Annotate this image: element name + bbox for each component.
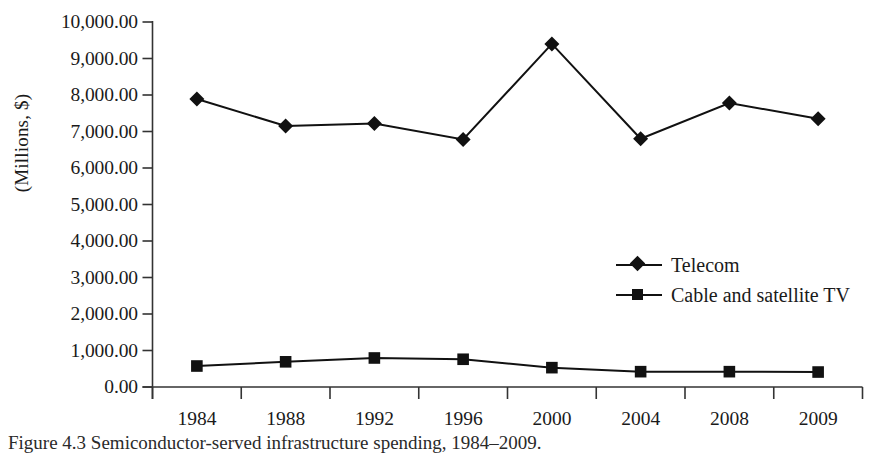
legend-label-telecom: Telecom bbox=[671, 255, 740, 275]
chart-legend: Telecom Cable and satellite TV bbox=[616, 250, 850, 310]
data-point-marker bbox=[280, 356, 292, 368]
data-point-marker bbox=[724, 366, 736, 378]
data-point-marker bbox=[546, 362, 558, 374]
data-point-marker bbox=[369, 352, 381, 364]
data-point-marker bbox=[367, 116, 382, 131]
data-point-marker bbox=[812, 366, 824, 378]
data-point-marker bbox=[635, 366, 647, 378]
data-point-marker bbox=[811, 111, 826, 126]
legend-item-telecom: Telecom bbox=[616, 250, 850, 280]
figure-caption: Figure 4.3 Semiconductor-served infrastr… bbox=[8, 432, 868, 454]
series-cable-and-satellite-tv bbox=[191, 352, 824, 378]
legend-label-cable-satellite-tv: Cable and satellite TV bbox=[671, 285, 850, 305]
y-axis-ticks bbox=[143, 22, 153, 387]
data-point-marker bbox=[457, 353, 469, 365]
data-point-marker bbox=[722, 96, 737, 111]
legend-diamond-marker-icon bbox=[616, 255, 662, 275]
legend-square-marker-icon bbox=[616, 285, 662, 305]
data-series-layer bbox=[189, 36, 825, 377]
data-point-marker bbox=[278, 119, 293, 134]
data-point-marker bbox=[191, 360, 203, 372]
legend-item-cable-satellite-tv: Cable and satellite TV bbox=[616, 280, 850, 310]
x-axis-ticks bbox=[153, 387, 863, 399]
series-telecom bbox=[189, 36, 825, 147]
axis-lines bbox=[143, 21, 863, 399]
data-point-marker bbox=[189, 92, 204, 107]
